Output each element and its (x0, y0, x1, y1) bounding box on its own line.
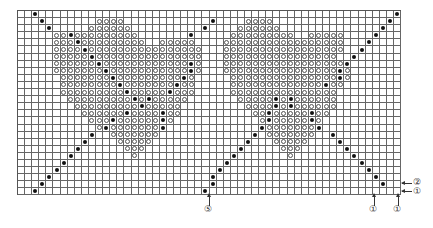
empty-cell (238, 167, 245, 174)
empty-cell (25, 18, 32, 25)
open-circle-stitch (132, 146, 139, 153)
empty-cell (32, 89, 39, 96)
empty-cell (110, 146, 117, 153)
empty-cell (387, 11, 394, 18)
open-circle-stitch (160, 68, 167, 75)
open-circle-stitch (61, 68, 68, 75)
open-circle-stitch (146, 110, 153, 117)
empty-cell (210, 146, 217, 153)
empty-cell (117, 181, 124, 188)
open-circle-stitch (330, 68, 337, 75)
open-circle-stitch (280, 110, 287, 117)
open-circle-stitch (117, 46, 124, 53)
open-circle-stitch (68, 61, 75, 68)
empty-cell (373, 153, 380, 160)
empty-cell (323, 160, 330, 167)
empty-cell (146, 174, 153, 181)
open-circle-stitch (146, 125, 153, 132)
empty-cell (53, 139, 60, 146)
empty-cell (46, 75, 53, 82)
empty-cell (89, 125, 96, 132)
filled-dot-stitch (337, 139, 344, 146)
open-circle-stitch (61, 75, 68, 82)
empty-cell (139, 32, 146, 39)
empty-cell (344, 181, 351, 188)
empty-cell (18, 153, 25, 160)
open-circle-stitch (273, 46, 280, 53)
empty-cell (231, 160, 238, 167)
empty-cell (316, 153, 323, 160)
empty-cell (259, 132, 266, 139)
empty-cell (25, 117, 32, 124)
empty-cell (167, 181, 174, 188)
empty-cell (25, 181, 32, 188)
open-circle-stitch (132, 110, 139, 117)
open-circle-stitch (160, 61, 167, 68)
empty-cell (53, 89, 60, 96)
empty-cell (259, 181, 266, 188)
open-circle-stitch (146, 117, 153, 124)
empty-cell (210, 96, 217, 103)
empty-cell (53, 25, 60, 32)
open-circle-stitch (238, 46, 245, 53)
empty-cell (139, 160, 146, 167)
open-circle-stitch (103, 25, 110, 32)
empty-cell (359, 117, 366, 124)
empty-cell (160, 188, 167, 195)
empty-cell (61, 25, 68, 32)
open-circle-stitch (302, 125, 309, 132)
filled-dot-stitch (373, 32, 380, 39)
empty-cell (394, 96, 401, 103)
empty-cell (75, 117, 82, 124)
empty-cell (252, 181, 259, 188)
empty-cell (359, 153, 366, 160)
open-circle-stitch (68, 54, 75, 61)
empty-cell (309, 153, 316, 160)
empty-cell (359, 68, 366, 75)
empty-cell (210, 82, 217, 89)
empty-cell (25, 68, 32, 75)
empty-cell (288, 181, 295, 188)
empty-cell (366, 125, 373, 132)
empty-cell (309, 181, 316, 188)
open-circle-stitch (323, 75, 330, 82)
marker-label-bottom-middle: ⑤ (204, 205, 212, 214)
filled-dot-stitch (266, 110, 273, 117)
filled-dot-stitch (188, 32, 195, 39)
open-circle-stitch (61, 39, 68, 46)
open-circle-stitch (167, 117, 174, 124)
empty-cell (217, 82, 224, 89)
filled-dot-stitch (110, 117, 117, 124)
empty-cell (174, 167, 181, 174)
open-circle-stitch (280, 125, 287, 132)
empty-cell (18, 96, 25, 103)
open-circle-stitch (309, 75, 316, 82)
empty-cell (380, 39, 387, 46)
filled-dot-stitch (82, 46, 89, 53)
empty-cell (25, 32, 32, 39)
empty-cell (61, 117, 68, 124)
empty-cell (25, 89, 32, 96)
empty-cell (181, 146, 188, 153)
open-circle-stitch (181, 68, 188, 75)
empty-cell (295, 11, 302, 18)
open-circle-stitch (288, 61, 295, 68)
open-circle-stitch (139, 117, 146, 124)
empty-cell (366, 96, 373, 103)
open-circle-stitch (245, 96, 252, 103)
open-circle-stitch (266, 32, 273, 39)
open-circle-stitch (61, 61, 68, 68)
empty-cell (309, 25, 316, 32)
open-circle-stitch (96, 110, 103, 117)
filled-dot-stitch (89, 132, 96, 139)
empty-cell (273, 160, 280, 167)
empty-cell (238, 188, 245, 195)
open-circle-stitch (167, 39, 174, 46)
open-circle-stitch (323, 89, 330, 96)
open-circle-stitch (302, 46, 309, 53)
empty-cell (210, 39, 217, 46)
empty-cell (245, 181, 252, 188)
empty-cell (224, 181, 231, 188)
open-circle-stitch (238, 61, 245, 68)
open-circle-stitch (302, 139, 309, 146)
